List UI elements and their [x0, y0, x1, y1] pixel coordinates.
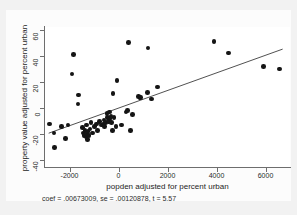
- scatter-point: [212, 39, 217, 44]
- figure-card: property value adjusted for percent urba…: [6, 10, 291, 201]
- scatter-point: [111, 91, 116, 96]
- y-tick-label-text: 40: [33, 58, 40, 66]
- scatter-point: [149, 97, 154, 102]
- x-tick-label: 4000: [195, 172, 239, 179]
- y-tick: [40, 30, 44, 31]
- scatter-point: [145, 90, 150, 95]
- y-tick-label: -40: [6, 155, 40, 165]
- scatter-point: [47, 122, 52, 127]
- scatter-point: [138, 95, 143, 100]
- y-tick-label: 60: [6, 25, 40, 35]
- x-tick-label: 0: [97, 172, 141, 179]
- y-tick: [40, 108, 44, 109]
- scatter-point: [110, 128, 115, 133]
- scatter-point: [63, 136, 68, 141]
- scatter-point: [261, 64, 266, 69]
- screenshot-root: property value adjusted for percent urba…: [0, 0, 297, 215]
- x-tick-label: 2000: [146, 172, 190, 179]
- scatter-point: [112, 115, 117, 120]
- plot-area: [45, 27, 290, 167]
- y-tick-label-text: 60: [33, 32, 40, 40]
- scatter-point: [114, 124, 119, 129]
- x-axis-title: popden adjusted for percent urban: [45, 182, 290, 191]
- regression-line: [45, 27, 290, 167]
- x-tick-label: 6000: [244, 172, 288, 179]
- scatter-point: [125, 108, 130, 113]
- y-tick-label-text: -40: [31, 162, 38, 172]
- regression-caption: coef = .00673009, se = .00120878, t = 5.…: [42, 195, 176, 202]
- scatter-point: [59, 124, 64, 129]
- scatter-point: [95, 128, 100, 133]
- scatter-point: [85, 137, 90, 142]
- y-tick: [40, 134, 44, 135]
- y-tick: [40, 56, 44, 57]
- scatter-point: [277, 67, 282, 72]
- scatter-point: [71, 52, 76, 57]
- y-tick-label-text: 0: [35, 113, 42, 117]
- scatter-point: [76, 93, 81, 98]
- scatter-point: [52, 145, 57, 150]
- y-tick: [40, 82, 44, 83]
- scatter-point: [226, 51, 231, 56]
- scatter-point: [128, 128, 133, 133]
- y-axis-title: property value adjusted for percent urba…: [18, 28, 30, 168]
- y-tick: [40, 160, 44, 161]
- y-tick-label: -20: [6, 129, 40, 139]
- scatter-point: [109, 120, 114, 125]
- y-tick-label: 20: [6, 77, 40, 87]
- y-tick-label: 40: [6, 51, 40, 61]
- y-tick-label: 0: [6, 103, 40, 113]
- x-tick-label: -2000: [48, 172, 92, 179]
- y-tick-label-text: -20: [31, 136, 38, 146]
- y-tick-label-text: 20: [33, 85, 40, 93]
- scatter-point: [102, 124, 107, 129]
- scatter-point: [130, 112, 135, 117]
- y-axis-title-text: property value adjusted for percent urba…: [20, 25, 29, 171]
